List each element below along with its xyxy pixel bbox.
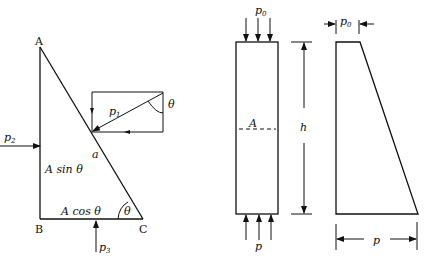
vertex-b-label: B [35, 223, 43, 236]
a-label: a [92, 148, 99, 161]
bottom-load-label: p [255, 240, 262, 253]
theta-arc-rect-icon [148, 101, 163, 113]
top-load-label: p0 [255, 4, 267, 18]
theta-label-c: θ [124, 205, 131, 218]
p3-label: p3 [99, 241, 111, 255]
top-load-arrows-icon [246, 18, 270, 41]
horizontal-side-label: A cos θ [60, 205, 101, 218]
p1-label: p1 [109, 105, 121, 119]
p1-arrow-icon [93, 93, 163, 131]
bottom-width-label: p [373, 234, 380, 247]
vertical-side-label: A sin θ [44, 163, 83, 176]
column-body [236, 42, 278, 214]
bottom-load-arrows-icon [246, 215, 271, 240]
pressure-distribution-shape [336, 42, 418, 214]
down-arrowhead-icon [90, 108, 94, 114]
left-arrowhead-icon [124, 130, 130, 134]
height-label: h [300, 121, 307, 134]
vertex-c-label: C [139, 223, 147, 236]
section-a-label: A [248, 117, 257, 130]
theta-label-rect: θ [168, 98, 175, 111]
diagram-canvas: A B C θ p1 p2 p3 a A sin θ A cos θ θ A p… [0, 0, 426, 262]
p2-label: p2 [4, 131, 16, 145]
vertex-a-label: A [34, 35, 44, 48]
top-width-label: p0 [340, 15, 352, 29]
